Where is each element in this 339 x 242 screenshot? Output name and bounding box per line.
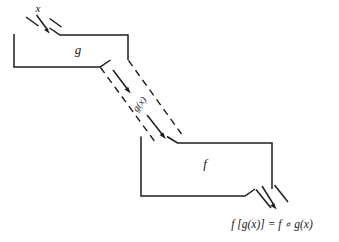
- gx-channel-group: g(x): [101, 61, 182, 143]
- output-pipe-right: [275, 185, 289, 202]
- gx-arrow-lower: [147, 115, 166, 139]
- machine-g-label: g: [75, 42, 82, 57]
- machine-g-group: g: [14, 28, 128, 67]
- input-pipe-left: [26, 17, 39, 26]
- machine-f-label: f: [203, 156, 209, 171]
- composition-svg: g x g(x): [0, 0, 339, 242]
- input-arrow: [37, 15, 50, 34]
- input-label: x: [35, 2, 41, 14]
- result-label: f [g(x)] = f ∘ g(x): [231, 218, 313, 231]
- output-pipe-left: [256, 190, 271, 209]
- gx-pipe-lower-left: [101, 68, 156, 143]
- gx-arrow-upper: [113, 70, 131, 94]
- function-composition-diagram: g x g(x): [0, 0, 339, 242]
- machine-f-group: f: [141, 137, 272, 197]
- input-pipe-right: [50, 19, 62, 28]
- machine-g-outline: [14, 28, 128, 67]
- input-channel-group: x: [26, 2, 62, 34]
